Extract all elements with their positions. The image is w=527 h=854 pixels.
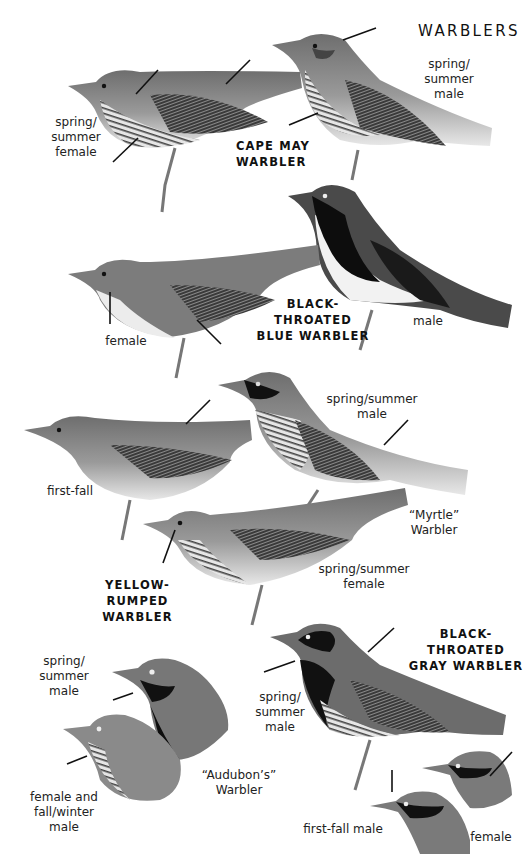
species-name-black-throated-gray: BLACK- THROATED GRAY WARBLER xyxy=(406,626,526,674)
label-line: spring/summer xyxy=(322,392,422,407)
label-line: spring/summer xyxy=(314,562,414,577)
species-name-line: THROATED xyxy=(248,312,378,328)
label-line: spring/ xyxy=(252,690,308,705)
plumage-label-bt-gray-male: spring/ summer male xyxy=(252,690,308,735)
label-line: summer male xyxy=(24,669,104,699)
species-name-line: WARBLER xyxy=(236,154,310,170)
plumage-label-yr-spring-male: spring/summer male xyxy=(322,392,422,422)
subspecies-label-myrtle: “Myrtle” Warbler xyxy=(404,508,464,538)
label-line: female xyxy=(100,334,152,349)
plumage-label-audubons-female: female and fall/winter male xyxy=(28,790,100,835)
label-line: “Myrtle” xyxy=(404,508,464,523)
species-name-line: BLUE WARBLER xyxy=(248,328,378,344)
species-name-line: THROATED xyxy=(406,642,526,658)
page-title: WARBLERS xyxy=(418,22,520,40)
species-name-line: YELLOW-RUMPED xyxy=(80,577,195,609)
label-line: first-fall male xyxy=(300,822,386,837)
plumage-label-bt-gray-first-fall-male: first-fall male xyxy=(300,822,386,837)
plumage-label-bt-blue-female: female xyxy=(100,334,152,349)
label-line: spring/ xyxy=(48,115,104,130)
species-name-line: WARBLER xyxy=(80,609,195,625)
species-name-line: GRAY WARBLER xyxy=(406,658,526,674)
label-line: “Audubon’s” xyxy=(200,768,278,783)
audubons-female-head-illustration xyxy=(63,714,181,800)
label-line: summer xyxy=(414,72,484,87)
field-guide-page: WARBLERS xyxy=(0,0,527,854)
yellow-rumped-first-fall-illustration xyxy=(24,416,252,540)
plumage-label-yr-spring-female: spring/summer female xyxy=(314,562,414,592)
label-line: Warbler xyxy=(404,523,464,538)
label-line: female xyxy=(466,830,516,845)
black-throated-gray-female-head-illustration xyxy=(422,751,512,808)
label-line: first-fall xyxy=(40,484,100,499)
species-name-line: CAPE MAY xyxy=(236,138,310,154)
plumage-label-bt-gray-female: female xyxy=(466,830,516,845)
label-line: female xyxy=(314,577,414,592)
label-line: spring/ xyxy=(24,654,104,669)
species-name-black-throated-blue: BLACK- THROATED BLUE WARBLER xyxy=(248,296,378,344)
label-line: male xyxy=(414,87,484,102)
species-name-cape-may: CAPE MAY WARBLER xyxy=(236,138,310,170)
audubons-male-head-illustration xyxy=(112,659,228,760)
label-line: spring/ xyxy=(414,57,484,72)
plumage-label-cape-may-female: spring/ summer female xyxy=(48,115,104,160)
label-line: male xyxy=(322,407,422,422)
label-line: female xyxy=(48,145,104,160)
label-line: male xyxy=(408,314,448,329)
subspecies-label-audubons: “Audubon’s” Warbler xyxy=(200,768,278,798)
plumage-label-cape-may-male: spring/ summer male xyxy=(414,57,484,102)
label-line: male xyxy=(28,820,100,835)
plumage-label-yr-first-fall: first-fall xyxy=(40,484,100,499)
label-line: summer xyxy=(252,705,308,720)
plumage-label-bt-blue-male: male xyxy=(408,314,448,329)
label-line: summer xyxy=(48,130,104,145)
plumage-label-audubons-male: spring/ summer male xyxy=(24,654,104,699)
label-line: Warbler xyxy=(200,783,278,798)
label-line: female and xyxy=(28,790,100,805)
species-name-yellow-rumped: YELLOW-RUMPED WARBLER xyxy=(80,577,195,625)
species-name-line: BLACK- xyxy=(248,296,378,312)
species-name-line: BLACK- xyxy=(406,626,526,642)
label-line: fall/winter xyxy=(28,805,100,820)
label-line: male xyxy=(252,720,308,735)
